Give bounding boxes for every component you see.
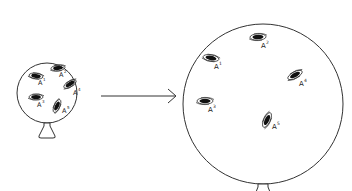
small-balloon-body	[17, 63, 77, 123]
large-balloon-knot-icon	[254, 184, 273, 191]
large-balloon: A 1 A 2 A 3 A 4 A 5	[183, 24, 343, 191]
balloon-expansion-diagram: A 1 A 2 A 3 A 4 A 5	[0, 0, 352, 191]
small-balloon-knot-icon	[39, 123, 56, 138]
galaxy-label-sup: 5	[277, 121, 280, 126]
galaxy-label-sup: 2	[266, 40, 269, 45]
galaxy-label-sup: 3	[213, 104, 216, 109]
galaxy-label-sup: 4	[304, 78, 307, 83]
galaxy-label-sup: 1	[219, 61, 222, 66]
galaxy-label-sup: 4	[78, 87, 81, 92]
expansion-arrow-icon	[101, 89, 176, 103]
small-balloon: A 1 A 2 A 3 A 4 A 5	[17, 63, 81, 138]
